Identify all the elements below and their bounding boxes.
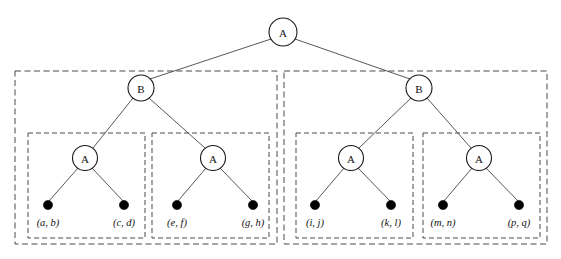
tree-node-b-right[interactable]: B: [406, 75, 432, 101]
tree-node-a-1[interactable]: A: [73, 146, 98, 171]
tree-edge-a-1-to-leaf-1: [49, 168, 78, 201]
tree-edge-a-3-to-leaf-6: [358, 168, 390, 201]
tree-node-a-4[interactable]: A: [467, 146, 492, 171]
tree-node-a-3[interactable]: A: [339, 146, 364, 171]
leaf-label-leaf-1: (a, b): [37, 217, 60, 229]
tree-edge-a-4-to-leaf-8: [486, 168, 518, 201]
tree-edge-a-3-to-leaf-5: [316, 168, 344, 201]
node-label-a-1: A: [81, 153, 89, 165]
tree-leaf-leaf-6[interactable]: (k, l): [381, 200, 401, 229]
leaf-label-leaf-3: (e, f): [167, 217, 187, 229]
leaf-dot-leaf-2: [119, 200, 128, 209]
leaf-dot-leaf-6: [386, 200, 395, 209]
tree-edge-b-right-to-a-3: [359, 98, 411, 148]
node-label-b-right: B: [415, 83, 422, 95]
tree-edge-root-to-b-left: [150, 39, 271, 79]
tree-edge-b-left-to-a-2: [149, 98, 205, 148]
tree-edge-a-1-to-leaf-2: [92, 168, 123, 201]
leaf-dot-leaf-3: [172, 200, 181, 209]
leaf-dot-leaf-4: [248, 200, 257, 209]
tree-nodes-layer: ABBAAAA: [73, 18, 492, 171]
node-label-a-4: A: [475, 153, 483, 165]
node-label-root: A: [279, 27, 287, 39]
node-label-b-left: B: [137, 83, 144, 95]
tree-leaf-leaf-3[interactable]: (e, f): [167, 200, 187, 229]
leaf-dot-leaf-7: [438, 200, 447, 209]
leaf-label-leaf-4: (g, h): [242, 217, 265, 229]
leaf-label-leaf-2: (c, d): [113, 217, 136, 229]
tree-leaf-leaf-5[interactable]: (i, j): [306, 200, 325, 229]
node-label-a-2: A: [209, 153, 217, 165]
tree-leaf-leaf-4[interactable]: (g, h): [242, 200, 265, 229]
leaf-label-leaf-6: (k, l): [381, 217, 401, 229]
leaf-dot-leaf-8: [514, 200, 523, 209]
tree-leaf-leaf-8[interactable]: (p, q): [508, 200, 531, 229]
tree-diagram-canvas: ABBAAAA (a, b)(c, d)(e, f)(g, h)(i, j)(k…: [0, 0, 561, 259]
leaf-label-leaf-7: (m, n): [430, 217, 456, 229]
leaf-dot-leaf-5: [310, 200, 319, 209]
tree-node-a-2[interactable]: A: [201, 146, 226, 171]
tree-leaf-leaf-2[interactable]: (c, d): [113, 200, 136, 229]
tree-edge-b-left-to-a-1: [93, 98, 133, 148]
tree-leaf-leaf-7[interactable]: (m, n): [430, 200, 456, 229]
tree-edge-a-2-to-leaf-4: [220, 168, 252, 201]
tree-edge-root-to-b-right: [295, 39, 410, 79]
leaf-dot-leaf-1: [43, 200, 52, 209]
tree-node-b-left[interactable]: B: [128, 75, 154, 101]
tree-edge-a-2-to-leaf-3: [178, 168, 206, 201]
tree-edge-a-4-to-leaf-7: [444, 168, 472, 201]
tree-diagram-svg: ABBAAAA (a, b)(c, d)(e, f)(g, h)(i, j)(k…: [0, 0, 561, 259]
node-label-a-3: A: [347, 153, 355, 165]
tree-node-root[interactable]: A: [269, 18, 297, 46]
leaf-label-leaf-8: (p, q): [508, 217, 531, 229]
leaf-label-leaf-5: (i, j): [306, 217, 325, 229]
tree-leaf-leaf-1[interactable]: (a, b): [37, 200, 60, 229]
tree-edge-b-right-to-a-4: [427, 98, 471, 148]
